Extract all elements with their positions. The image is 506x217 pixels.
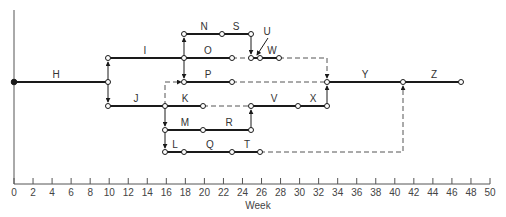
node: [182, 32, 187, 37]
axis-tick-label: 8: [87, 187, 93, 198]
axis-tick-label: 14: [142, 187, 154, 198]
label-J: J: [134, 93, 139, 104]
node: [230, 150, 235, 155]
label-T: T: [244, 139, 250, 150]
node: [182, 150, 187, 155]
axis-tick-label: 10: [104, 187, 116, 198]
axis-tick-label: 28: [275, 187, 287, 198]
label-Z: Z: [431, 69, 437, 80]
node: [277, 56, 282, 61]
node: [106, 56, 111, 61]
axis-tick-label: 40: [389, 187, 401, 198]
label-R: R: [225, 117, 232, 128]
label-I: I: [144, 45, 147, 56]
label-W: W: [267, 45, 277, 56]
node: [230, 56, 235, 61]
label-H: H: [52, 69, 59, 80]
end-node: [459, 80, 464, 85]
label-X: X: [310, 93, 317, 104]
node: [325, 80, 330, 85]
axis-tick-label: 50: [484, 187, 496, 198]
node: [201, 104, 206, 109]
label-P: P: [205, 69, 212, 80]
node: [220, 32, 225, 37]
label-M: M: [181, 117, 189, 128]
node: [258, 56, 263, 61]
label-V: V: [271, 93, 278, 104]
axis-tick-label: 12: [123, 187, 135, 198]
dummy-W-Y: [279, 58, 327, 78]
axis-tick-label: 44: [427, 187, 439, 198]
dummy-T-Z: [260, 86, 403, 152]
node: [249, 32, 254, 37]
node: [296, 104, 301, 109]
node: [249, 128, 254, 133]
axis-tick-label: 36: [351, 187, 363, 198]
label-Y: Y: [362, 69, 369, 80]
axis-tick-label: 2: [30, 187, 36, 198]
axis-tick-label: 30: [294, 187, 306, 198]
node: [163, 128, 168, 133]
axis-tick-label: 46: [446, 187, 458, 198]
axis-tick-label: 42: [408, 187, 420, 198]
axis-tick-label: 20: [199, 187, 211, 198]
node: [249, 104, 254, 109]
axis-tick-label: 16: [161, 187, 173, 198]
label-U: U: [263, 26, 270, 37]
axis-tick-label: 38: [370, 187, 382, 198]
axis-tick-label: 0: [11, 187, 17, 198]
node: [106, 104, 111, 109]
network-diagram: 0246810121416182022242628303234363840424…: [0, 0, 506, 217]
node: [201, 128, 206, 133]
axis-tick-label: 18: [180, 187, 192, 198]
label-Q: Q: [206, 139, 214, 150]
node: [163, 150, 168, 155]
node: [249, 56, 254, 61]
axis-tick-label: 26: [256, 187, 268, 198]
axis-tick-label: 34: [332, 187, 344, 198]
axis-tick-label: 48: [465, 187, 477, 198]
node: [106, 80, 111, 85]
node: [182, 56, 187, 61]
dummy-J-P: [165, 82, 181, 106]
label-L: L: [172, 139, 178, 150]
x-axis-label: Week: [245, 200, 271, 211]
node: [230, 80, 235, 85]
node: [325, 104, 330, 109]
axis-tick-label: 22: [218, 187, 230, 198]
node: [182, 80, 187, 85]
node: [163, 104, 168, 109]
label-K: K: [182, 93, 189, 104]
node: [401, 80, 406, 85]
axis-tick-label: 4: [49, 187, 55, 198]
x-axis-ticks: 0246810121416182022242628303234363840424…: [11, 178, 496, 198]
axis-tick-label: 32: [313, 187, 325, 198]
start-node: [11, 79, 17, 85]
axis-tick-label: 6: [68, 187, 74, 198]
node: [258, 150, 263, 155]
label-N: N: [200, 21, 207, 32]
axis-tick-label: 24: [237, 187, 249, 198]
label-O: O: [204, 45, 212, 56]
label-S: S: [233, 21, 240, 32]
